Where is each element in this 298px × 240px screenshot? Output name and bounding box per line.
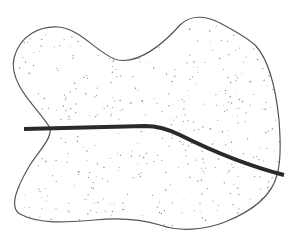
diagram-canvas xyxy=(0,0,298,240)
diagram-svg xyxy=(0,0,298,240)
region-shape xyxy=(13,17,280,229)
